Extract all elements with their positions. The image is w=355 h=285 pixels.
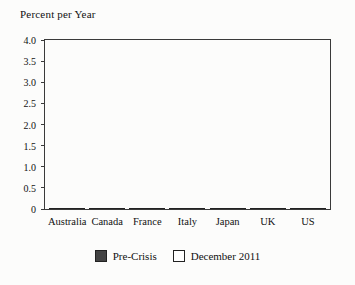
plot-area: 4.03.53.02.52.01.51.00.50 (44, 39, 331, 210)
x-label-france: France (128, 216, 166, 227)
bar-pre-crisis-japan (210, 208, 228, 209)
bar-group-canada (89, 208, 125, 209)
bar-group-france (129, 208, 165, 209)
y-tick-label: 1.0 (24, 161, 37, 172)
legend-item-pre-crisis: Pre-Crisis (95, 250, 157, 262)
legend-label-december-2011: December 2011 (191, 250, 261, 262)
x-label-canada: Canada (88, 216, 126, 227)
x-label-us: US (289, 216, 327, 227)
x-label-italy: Italy (168, 216, 206, 227)
bar-pre-crisis-australia (49, 208, 67, 209)
chart-title: Percent per Year (20, 8, 96, 20)
bar-december-2011-japan (228, 208, 246, 209)
bar-group-us (290, 208, 326, 209)
y-tick-label: 2.0 (24, 119, 37, 130)
bar-december-2011-canada (107, 208, 125, 209)
bar-december-2011-us (308, 208, 326, 209)
bar-pre-crisis-france (129, 208, 147, 209)
bar-group-japan (210, 208, 246, 209)
y-tick-label: 2.5 (24, 98, 37, 109)
december-2011-swatch-icon (173, 250, 185, 262)
bar-pre-crisis-italy (169, 208, 187, 209)
bar-december-2011-uk (268, 208, 286, 209)
y-tick-label: 0.5 (24, 182, 37, 193)
legend-label-pre-crisis: Pre-Crisis (113, 250, 157, 262)
pre-crisis-swatch-icon (95, 250, 107, 262)
y-tick-label: 3.0 (24, 77, 37, 88)
y-tick-label: 0 (31, 204, 36, 215)
bar-group-australia (49, 208, 85, 209)
y-tick-label: 4.0 (24, 35, 37, 46)
bar-pre-crisis-us (290, 208, 308, 209)
legend: Pre-Crisis December 2011 (0, 250, 355, 262)
x-label-uk: UK (249, 216, 287, 227)
x-label-australia: Australia (48, 216, 86, 227)
bar-december-2011-australia (67, 208, 85, 209)
bar-december-2011-italy (187, 208, 205, 209)
x-axis-labels: AustraliaCanadaFranceItalyJapanUKUS (44, 216, 331, 227)
bar-group-uk (250, 208, 286, 209)
bar-group-italy (169, 208, 205, 209)
legend-item-december-2011: December 2011 (173, 250, 261, 262)
bar-december-2011-france (147, 208, 165, 209)
bar-chart-figure: Percent per Year 4.03.53.02.52.01.51.00.… (0, 0, 355, 285)
y-tick-label: 3.5 (24, 56, 37, 67)
bars-container (45, 40, 330, 209)
bar-pre-crisis-canada (89, 208, 107, 209)
bar-pre-crisis-uk (250, 208, 268, 209)
x-label-japan: Japan (209, 216, 247, 227)
y-tick-label: 1.5 (24, 140, 37, 151)
